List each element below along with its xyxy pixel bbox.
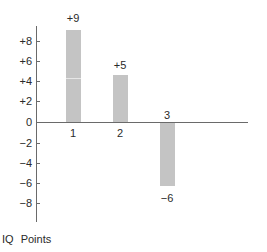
y-tick	[36, 163, 40, 164]
bar-value-label: +5	[105, 59, 135, 71]
y-tick-label: −6	[2, 177, 32, 189]
y-tick	[36, 61, 40, 62]
y-tick	[36, 143, 40, 144]
y-tick	[36, 41, 40, 42]
bar-value-label: +9	[58, 12, 88, 24]
y-tick	[36, 203, 40, 204]
y-tick	[36, 101, 40, 102]
y-tick-label: −8	[2, 197, 32, 209]
bar-highlight-line	[66, 78, 81, 79]
y-tick-label: +4	[2, 75, 32, 87]
bar-3	[160, 123, 175, 186]
bar-1	[66, 30, 81, 122]
y-tick-label: 0	[2, 116, 32, 128]
y-axis	[36, 26, 37, 222]
category-label: 3	[152, 109, 182, 121]
category-label: 2	[105, 127, 135, 139]
bar-value-label: −6	[152, 192, 182, 204]
y-tick-label: −2	[2, 137, 32, 149]
y-tick-label: +6	[2, 55, 32, 67]
y-axis-label: IQ Points	[2, 233, 51, 245]
y-tick-label: +2	[2, 95, 32, 107]
y-tick-label: −4	[2, 157, 32, 169]
y-tick	[36, 183, 40, 184]
bar-2	[113, 75, 128, 122]
category-label: 1	[58, 127, 88, 139]
y-tick	[36, 81, 40, 82]
zero-baseline	[36, 122, 248, 123]
y-tick-label: +8	[2, 35, 32, 47]
